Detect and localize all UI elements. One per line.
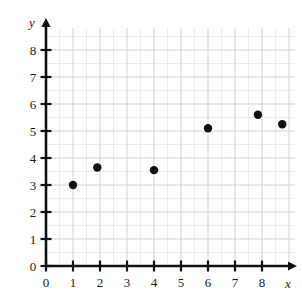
- x-tick-label: 7: [232, 275, 239, 290]
- y-tick-label: 0: [30, 259, 37, 274]
- plot-canvas: 012345678 012345678 x y: [0, 0, 302, 306]
- data-point: [69, 181, 77, 189]
- x-axis-tick-labels: 012345678: [43, 275, 266, 290]
- data-point: [204, 124, 212, 132]
- x-tick-label: 8: [259, 275, 266, 290]
- y-tick-label: 7: [30, 70, 37, 85]
- x-axis-label: x: [284, 276, 291, 291]
- y-tick-label: 1: [30, 232, 37, 247]
- data-point: [93, 163, 101, 171]
- x-tick-label: 6: [205, 275, 212, 290]
- x-tick-label: 2: [97, 275, 104, 290]
- scatter-plot: 012345678 012345678 x y: [0, 0, 302, 306]
- y-tick-label: 5: [30, 124, 37, 139]
- x-tick-label: 0: [43, 275, 50, 290]
- x-tick-label: 3: [124, 275, 131, 290]
- y-tick-label: 2: [30, 205, 37, 220]
- data-point: [254, 111, 262, 119]
- y-tick-label: 6: [30, 97, 37, 112]
- y-tick-label: 8: [30, 43, 37, 58]
- data-point: [278, 120, 286, 128]
- y-axis-label: y: [27, 15, 35, 30]
- x-tick-label: 5: [178, 275, 185, 290]
- y-tick-label: 4: [30, 151, 37, 166]
- y-tick-label: 3: [30, 178, 37, 193]
- data-point: [150, 166, 158, 174]
- x-tick-label: 1: [70, 275, 77, 290]
- y-axis-tick-labels: 012345678: [30, 43, 37, 274]
- x-tick-label: 4: [151, 275, 158, 290]
